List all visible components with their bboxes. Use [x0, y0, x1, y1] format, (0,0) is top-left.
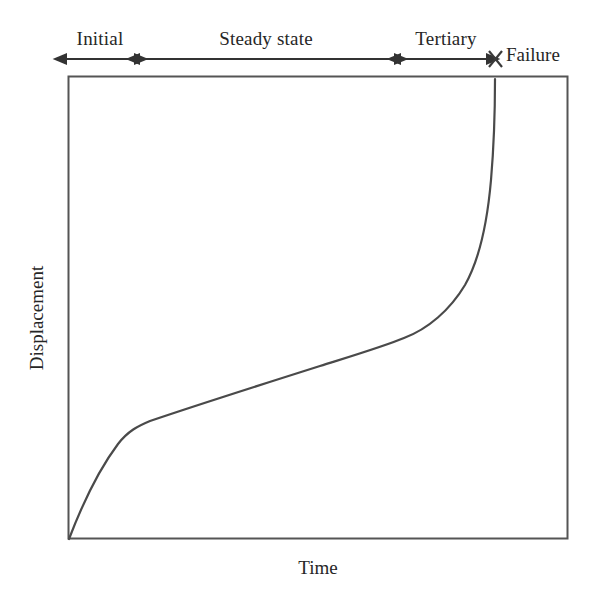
failure-label: Failure — [506, 44, 560, 66]
creep-curve-figure: Initial Steady state Tertiary Failure Di… — [0, 0, 599, 603]
stage-label-tertiary: Tertiary — [400, 28, 492, 50]
failure-x-marker-icon — [489, 51, 502, 67]
x-axis-label: Time — [258, 557, 378, 579]
stage-label-initial: Initial — [50, 28, 150, 50]
creep-curve-plot — [0, 0, 599, 603]
y-axis-label: Displacement — [26, 233, 48, 403]
stage-label-steady-state: Steady state — [206, 28, 326, 50]
creep-curve-line — [69, 79, 495, 539]
